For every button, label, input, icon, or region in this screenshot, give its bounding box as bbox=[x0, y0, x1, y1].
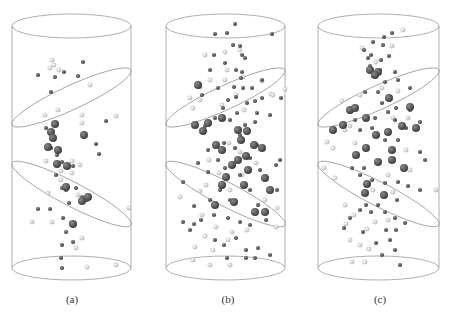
dark-sphere bbox=[373, 116, 377, 120]
dark-sphere bbox=[362, 166, 366, 170]
light-sphere bbox=[322, 166, 327, 171]
dark-sphere bbox=[394, 106, 398, 110]
dark-sphere bbox=[393, 248, 397, 252]
dark-sphere bbox=[388, 238, 392, 242]
light-sphere bbox=[74, 246, 79, 251]
dark-sphere bbox=[192, 222, 196, 226]
dark-sphere bbox=[366, 56, 370, 60]
dark-sphere bbox=[206, 148, 210, 152]
dark-sphere bbox=[358, 208, 362, 212]
dark-sphere bbox=[260, 78, 264, 82]
light-sphere bbox=[283, 87, 288, 92]
dark-sphere bbox=[233, 146, 237, 150]
light-sphere bbox=[374, 60, 379, 65]
dark-sphere bbox=[255, 111, 259, 115]
light-sphere bbox=[214, 225, 219, 230]
light-sphere bbox=[208, 263, 213, 268]
light-sphere bbox=[50, 58, 55, 63]
large-dark-sphere bbox=[204, 119, 212, 127]
dark-sphere bbox=[200, 93, 204, 97]
inclined-plane-ellipse bbox=[7, 59, 136, 136]
dark-sphere bbox=[256, 203, 260, 207]
dark-sphere bbox=[208, 68, 212, 72]
large-dark-sphere bbox=[362, 114, 370, 122]
dark-sphere bbox=[81, 60, 85, 64]
panel-b bbox=[160, 14, 290, 280]
light-sphere bbox=[242, 108, 247, 113]
large-dark-sphere bbox=[261, 174, 269, 182]
large-dark-sphere bbox=[243, 127, 251, 135]
inclined-plane-ellipse bbox=[160, 152, 290, 235]
cylinder-bottom-ellipse bbox=[166, 256, 285, 280]
dark-sphere bbox=[235, 111, 239, 115]
large-dark-sphere bbox=[211, 201, 219, 209]
light-sphere bbox=[80, 113, 85, 118]
light-sphere bbox=[396, 89, 401, 94]
dark-sphere bbox=[244, 248, 248, 252]
dark-sphere bbox=[270, 32, 274, 36]
dark-sphere bbox=[245, 101, 249, 105]
light-sphere bbox=[227, 141, 232, 146]
dark-sphere bbox=[408, 86, 412, 90]
light-sphere bbox=[56, 108, 61, 113]
dark-sphere bbox=[406, 184, 410, 188]
dark-sphere bbox=[361, 230, 365, 234]
light-sphere bbox=[59, 178, 64, 183]
dark-sphere bbox=[358, 173, 362, 177]
dark-sphere bbox=[253, 99, 257, 103]
light-sphere bbox=[203, 53, 208, 58]
dark-sphere bbox=[274, 163, 278, 167]
light-sphere bbox=[208, 78, 213, 83]
dark-sphere bbox=[395, 198, 399, 202]
dark-sphere bbox=[383, 210, 387, 214]
dark-sphere bbox=[390, 31, 394, 35]
dark-sphere bbox=[233, 22, 237, 26]
light-sphere bbox=[188, 96, 193, 101]
light-sphere bbox=[228, 263, 233, 268]
dark-sphere bbox=[279, 96, 283, 100]
dark-sphere bbox=[36, 73, 40, 77]
light-sphere bbox=[404, 148, 409, 153]
cylinder-top-ellipse bbox=[318, 14, 439, 38]
dark-sphere bbox=[54, 173, 58, 177]
light-sphere bbox=[358, 243, 363, 248]
dark-sphere bbox=[238, 173, 242, 177]
dark-sphere bbox=[243, 56, 247, 60]
light-sphere bbox=[80, 236, 85, 241]
large-dark-sphere bbox=[351, 104, 359, 112]
large-dark-sphere bbox=[329, 126, 337, 134]
large-dark-sphere bbox=[191, 121, 199, 129]
dark-sphere bbox=[241, 86, 245, 90]
dark-sphere bbox=[44, 126, 48, 130]
light-sphere bbox=[348, 238, 353, 243]
light-sphere bbox=[70, 171, 75, 176]
dark-sphere bbox=[239, 76, 243, 80]
light-sphere bbox=[85, 265, 90, 270]
light-sphere bbox=[238, 150, 243, 155]
dark-sphere bbox=[248, 223, 252, 227]
light-sphere bbox=[203, 234, 208, 239]
caption-b: (b) bbox=[208, 293, 248, 305]
dark-sphere bbox=[240, 53, 244, 57]
dark-sphere bbox=[60, 243, 64, 247]
light-sphere bbox=[391, 190, 396, 195]
large-dark-sphere bbox=[44, 143, 52, 151]
dark-sphere bbox=[253, 120, 257, 124]
light-sphere bbox=[434, 188, 439, 193]
dark-sphere bbox=[418, 120, 422, 124]
light-sphere bbox=[178, 195, 183, 200]
light-sphere bbox=[331, 146, 336, 151]
dark-sphere bbox=[387, 54, 391, 58]
dark-sphere bbox=[97, 152, 101, 156]
large-dark-sphere bbox=[385, 94, 393, 102]
light-sphere bbox=[217, 171, 222, 176]
large-dark-sphere bbox=[388, 146, 396, 154]
light-sphere bbox=[88, 83, 93, 88]
light-sphere bbox=[52, 63, 57, 68]
large-dark-sphere bbox=[49, 134, 57, 142]
dark-sphere bbox=[225, 31, 229, 35]
dark-sphere bbox=[394, 228, 398, 232]
caption-c: (c) bbox=[360, 293, 400, 305]
dark-sphere bbox=[94, 142, 98, 146]
light-sphere bbox=[343, 203, 348, 208]
